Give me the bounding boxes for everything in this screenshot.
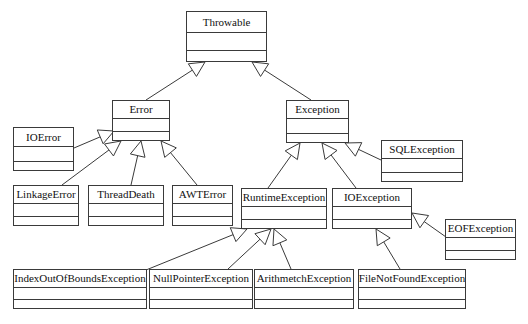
uml-class-exception[interactable]: Exception	[286, 100, 349, 143]
uml-class-indexoutofboundsexception[interactable]: IndexOutOfBoundsException	[13, 269, 147, 309]
uml-class-error[interactable]: Error	[112, 100, 170, 141]
uml-operations-compartment	[242, 220, 326, 228]
uml-attributes-compartment	[14, 147, 73, 162]
uml-operations-compartment	[150, 300, 252, 308]
class-node-layer: ThrowableErrorExceptionIOErrorSQLExcepti…	[0, 0, 528, 324]
uml-operations-compartment	[446, 251, 515, 259]
uml-class-name: NullPointerException	[150, 270, 252, 288]
uml-class-name: EOFException	[446, 220, 515, 238]
uml-operations-compartment	[113, 132, 169, 140]
uml-operations-compartment	[14, 217, 78, 225]
uml-operations-compartment	[333, 220, 411, 228]
uml-class-name: SQLException	[382, 141, 462, 159]
uml-class-name: IOError	[14, 128, 73, 147]
uml-class-throwable[interactable]: Throwable	[186, 11, 267, 62]
uml-class-name: Throwable	[187, 12, 266, 33]
uml-class-name: Error	[113, 101, 169, 119]
uml-class-awterror[interactable]: AWTError	[172, 185, 233, 226]
uml-operations-compartment	[359, 300, 465, 308]
uml-class-nullpointerexception[interactable]: NullPointerException	[149, 269, 253, 309]
uml-class-ioerror[interactable]: IOError	[13, 127, 74, 171]
uml-class-linkageerror[interactable]: LinkageError	[13, 185, 79, 226]
uml-class-ioexception[interactable]: IOException	[332, 188, 412, 229]
uml-class-sqlexception[interactable]: SQLException	[381, 140, 463, 182]
uml-attributes-compartment	[173, 204, 232, 217]
uml-attributes-compartment	[14, 288, 146, 300]
uml-attributes-compartment	[359, 288, 465, 300]
uml-class-name: AWTError	[173, 186, 232, 204]
uml-class-name: Exception	[287, 101, 348, 119]
uml-class-threaddeath[interactable]: ThreadDeath	[88, 185, 164, 226]
uml-operations-compartment	[14, 162, 73, 170]
uml-class-name: ArithmetchException	[255, 270, 353, 288]
uml-attributes-compartment	[89, 204, 163, 217]
uml-attributes-compartment	[255, 288, 353, 300]
uml-class-name: IndexOutOfBoundsException	[14, 270, 146, 288]
uml-attributes-compartment	[333, 207, 411, 220]
uml-attributes-compartment	[287, 119, 348, 134]
uml-attributes-compartment	[242, 207, 326, 220]
uml-class-runtimeexception[interactable]: RuntimeException	[241, 188, 327, 229]
uml-class-diagram: ThrowableErrorExceptionIOErrorSQLExcepti…	[0, 0, 528, 324]
uml-attributes-compartment	[382, 159, 462, 173]
uml-operations-compartment	[382, 173, 462, 181]
uml-class-name: LinkageError	[14, 186, 78, 204]
uml-class-name: FileNotFoundException	[359, 270, 465, 288]
uml-operations-compartment	[173, 217, 232, 225]
uml-class-name: IOException	[333, 189, 411, 207]
uml-attributes-compartment	[113, 119, 169, 132]
uml-operations-compartment	[14, 300, 146, 308]
uml-class-name: ThreadDeath	[89, 186, 163, 204]
uml-attributes-compartment	[187, 33, 266, 51]
uml-class-arithmetchexception[interactable]: ArithmetchException	[254, 269, 354, 309]
uml-class-filenotfoundexception[interactable]: FileNotFoundException	[358, 269, 466, 309]
uml-attributes-compartment	[446, 238, 515, 251]
uml-class-name: RuntimeException	[242, 189, 326, 207]
uml-class-eofexception[interactable]: EOFException	[445, 219, 516, 260]
uml-operations-compartment	[187, 51, 266, 61]
uml-attributes-compartment	[150, 288, 252, 300]
uml-operations-compartment	[255, 300, 353, 308]
uml-operations-compartment	[287, 134, 348, 142]
uml-operations-compartment	[89, 217, 163, 225]
uml-attributes-compartment	[14, 204, 78, 217]
